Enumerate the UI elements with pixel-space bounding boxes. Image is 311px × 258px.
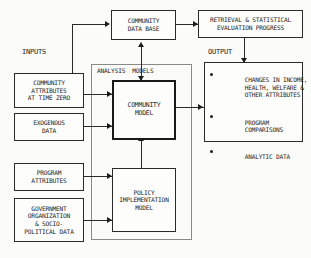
- program-attributes-box: PROGRAM ATTRIBUTES: [14, 163, 84, 191]
- connector-model-database: [141, 46, 142, 80]
- arrowhead-model-to-database: [138, 42, 144, 47]
- output-item-program-line1: PROGRAM: [245, 119, 269, 126]
- retrieval-program-line1: RETRIEVAL & STATISTICAL: [210, 16, 291, 24]
- retrieval-program-line2: EVALUATION PROGRESS: [217, 24, 284, 32]
- output-item-analytic-line1: ANALYTIC DATA: [245, 153, 290, 160]
- exogenous-data-line2: DATA: [42, 127, 56, 135]
- government-organization-line3: & SOCIO-: [35, 220, 63, 228]
- output-item-program: PROGRAM COMPARISONS: [210, 111, 297, 141]
- government-organization-line1: GOVERNMENT: [31, 205, 66, 213]
- policy-model-line2: IMPLEMENTATION: [119, 196, 168, 204]
- government-organization-line4: POLITICAL DATA: [24, 228, 73, 236]
- connector-attributes-to-database: [72, 24, 105, 25]
- community-attributes-line3: AT TIME ZERO: [28, 94, 70, 102]
- retrieval-program-box: RETRIEVAL & STATISTICAL EVALUATION PROGR…: [198, 10, 303, 38]
- arrowhead-to-database: [105, 21, 110, 27]
- policy-model-box: POLICY IMPLEMENTATION MODEL: [112, 168, 176, 232]
- bullet-icon: [210, 115, 213, 118]
- community-model-line2: MODEL: [135, 110, 153, 118]
- output-item-changes: CHANGES IN INCOME, HEALTH, WELFARE & OTH…: [210, 69, 297, 106]
- output-results-box: CHANGES IN INCOME, HEALTH, WELFARE & OTH…: [204, 62, 303, 142]
- program-attributes-line1: PROGRAM: [37, 169, 62, 177]
- analysis-models-label: ANALYSIS MODELS: [97, 67, 153, 74]
- output-item-changes-line1: CHANGES IN INCOME,: [245, 76, 307, 83]
- exogenous-data-box: EXOGENOUS DATA: [14, 113, 84, 141]
- community-attributes-line2: ATTRIBUTES: [31, 87, 66, 95]
- government-organization-line2: ORGANIZATION: [28, 212, 70, 220]
- output-item-analytic-text: ANALYTIC DATA: [217, 146, 290, 168]
- output-item-analytic: ANALYTIC DATA: [210, 146, 297, 168]
- exogenous-data-line1: EXOGENOUS: [33, 119, 65, 127]
- diagram-canvas: INPUTS ANALYSIS MODELS OUTPUT COMMUNITY …: [0, 0, 311, 258]
- output-item-program-line2: COMPARISONS: [245, 126, 283, 133]
- output-item-changes-text: CHANGES IN INCOME, HEALTH, WELFARE & OTH…: [217, 69, 307, 106]
- policy-model-line3: MODEL: [135, 204, 153, 212]
- community-model-box: COMMUNITY MODEL: [112, 80, 176, 140]
- output-item-changes-line3: OTHER ATTRIBUTES: [245, 91, 301, 98]
- program-attributes-line2: ATTRIBUTES: [31, 177, 66, 185]
- bullet-icon: [210, 73, 213, 76]
- output-item-changes-line2: HEALTH, WELFARE &: [245, 84, 304, 91]
- bullet-icon: [210, 150, 213, 153]
- output-label: OUTPUT: [208, 48, 232, 56]
- inputs-label: INPUTS: [22, 48, 46, 56]
- connector-policy-to-model: [141, 140, 142, 169]
- community-data-base-box: COMMUNITY DATA BASE: [111, 10, 176, 40]
- government-organization-box: GOVERNMENT ORGANIZATION & SOCIO- POLITIC…: [14, 198, 84, 242]
- policy-model-line1: POLICY: [133, 189, 154, 197]
- arrowhead-model-to-output: [198, 104, 203, 110]
- community-data-base-line2: DATA BASE: [128, 25, 160, 33]
- community-attributes-line1: COMMUNITY: [33, 79, 65, 87]
- community-data-base-line1: COMMUNITY: [128, 17, 160, 25]
- output-item-program-text: PROGRAM COMPARISONS: [217, 111, 283, 141]
- community-attributes-box: COMMUNITY ATTRIBUTES AT TIME ZERO: [14, 73, 84, 108]
